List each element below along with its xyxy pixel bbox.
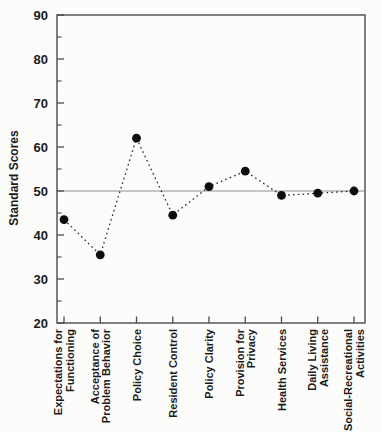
data-point-5: [241, 167, 250, 176]
x-category-label: Policy Clarity: [203, 328, 215, 399]
y-tick-label: 30: [34, 272, 48, 287]
data-point-0: [60, 215, 69, 224]
x-category-label: Problem Behavior: [100, 328, 112, 423]
y-axis-title: Standard Scores: [7, 130, 21, 226]
data-point-8: [350, 187, 359, 196]
data-point-3: [168, 211, 177, 220]
x-category-label: Privacy: [245, 328, 257, 368]
x-category-label: Social-Recreational: [342, 329, 354, 431]
scanned-chart-page: 9080706050403020Expectations forFunction…: [0, 0, 381, 432]
x-category-label: Functioning: [64, 329, 76, 392]
x-category-label: Resident Control: [167, 329, 179, 418]
y-tick-label: 50: [34, 184, 48, 199]
x-category-label: Expectations for: [52, 328, 64, 415]
x-category-label: Health Services: [276, 329, 288, 411]
y-tick-label: 90: [34, 8, 48, 23]
data-point-1: [96, 250, 105, 259]
data-point-6: [277, 191, 286, 200]
y-tick-label: 60: [34, 140, 48, 155]
y-tick-label: 80: [34, 52, 48, 67]
x-category-label: Policy Choice: [131, 329, 143, 401]
x-category-label: Assistance: [318, 329, 330, 387]
y-tick-label: 70: [34, 96, 48, 111]
x-category-label: Daily Living: [306, 329, 318, 391]
y-tick-label: 20: [34, 316, 48, 331]
y-tick-label: 40: [34, 228, 48, 243]
x-category-label: Acceptance of: [89, 329, 101, 405]
x-category-label: Provision for: [234, 328, 246, 397]
x-category-label: Activities: [354, 329, 366, 378]
data-point-4: [205, 182, 214, 191]
data-point-7: [313, 189, 322, 198]
data-point-2: [132, 134, 141, 143]
standard-scores-line-chart: 9080706050403020Expectations forFunction…: [0, 0, 381, 432]
